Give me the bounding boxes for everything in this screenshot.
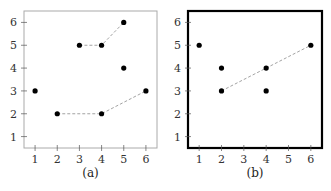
- x-tick-label: 4: [263, 153, 270, 166]
- x-tick-label: 2: [54, 153, 61, 166]
- plot-frame: [188, 11, 322, 148]
- y-tick-label: 4: [10, 62, 17, 75]
- x-tick-label: 1: [32, 153, 39, 166]
- y-tick-label: 6: [10, 16, 17, 29]
- data-point: [32, 88, 37, 93]
- y-tick-label: 3: [10, 85, 17, 98]
- scatter-panel-a: 123456123456(a): [10, 11, 157, 180]
- x-tick-label: 6: [142, 153, 149, 166]
- data-point: [99, 43, 104, 48]
- y-tick-label: 2: [174, 108, 181, 121]
- dashed-connector: [57, 91, 146, 114]
- data-point: [77, 43, 82, 48]
- panel-caption: (a): [82, 166, 99, 180]
- x-tick-label: 5: [120, 153, 127, 166]
- y-tick-label: 4: [174, 62, 181, 75]
- y-tick-label: 5: [10, 39, 17, 52]
- y-tick-label: 3: [174, 85, 181, 98]
- data-point: [264, 65, 269, 70]
- x-tick-label: 3: [76, 153, 83, 166]
- plot-frame: [24, 11, 157, 148]
- y-tick-label: 6: [174, 16, 181, 29]
- y-tick-label: 1: [10, 131, 17, 144]
- data-point: [55, 111, 60, 116]
- data-point: [308, 43, 313, 48]
- data-point: [99, 111, 104, 116]
- data-point: [264, 88, 269, 93]
- data-point: [219, 65, 224, 70]
- y-tick-label: 2: [10, 108, 17, 121]
- dashed-connector: [79, 22, 123, 45]
- x-tick-label: 4: [98, 153, 105, 166]
- x-tick-label: 5: [285, 153, 292, 166]
- data-point: [219, 88, 224, 93]
- data-point: [143, 88, 148, 93]
- data-point: [121, 65, 126, 70]
- data-point: [197, 43, 202, 48]
- panel-caption: (b): [246, 166, 263, 180]
- x-tick-label: 6: [307, 153, 314, 166]
- scatter-panel-b: 123456123456(b): [174, 11, 322, 180]
- y-tick-label: 1: [174, 131, 181, 144]
- data-point: [121, 20, 126, 25]
- y-tick-label: 5: [174, 39, 181, 52]
- x-tick-label: 2: [218, 153, 225, 166]
- x-tick-label: 3: [240, 153, 247, 166]
- x-tick-label: 1: [196, 153, 203, 166]
- figure: 123456123456(a)123456123456(b): [0, 0, 331, 191]
